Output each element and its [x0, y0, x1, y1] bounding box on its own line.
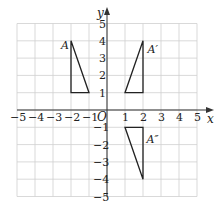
y-tick-label: 4	[99, 35, 106, 48]
x-tick-label: −4	[28, 111, 44, 124]
y-tick-label: −3	[93, 156, 109, 169]
y-tick-label: 1	[99, 87, 106, 100]
y-tick-label: 3	[99, 52, 106, 65]
triangle-label: A	[60, 39, 69, 52]
coordinate-grid-svg: x y O −5−4−3−2−11234554321−1−2−3−4−5 AA′…	[0, 0, 221, 209]
x-tick-label: −3	[46, 111, 62, 124]
triangle-a-prime	[125, 41, 143, 93]
triangle-label: A′	[147, 43, 159, 56]
y-tick-label: −1	[93, 121, 109, 134]
x-axis-label: x	[207, 112, 214, 126]
x-tick-label: 3	[158, 111, 165, 124]
y-tick-label: −5	[93, 191, 109, 204]
triangles: AA′A″	[60, 39, 159, 179]
y-tick-label: −2	[93, 139, 109, 152]
x-tick-label: 1	[122, 111, 129, 124]
triangle-a	[71, 41, 89, 93]
y-tick-label: 5	[99, 18, 106, 31]
x-tick-label: 5	[194, 111, 201, 124]
y-tick-label: 2	[99, 69, 106, 82]
x-tick-label: 2	[140, 111, 147, 124]
y-tick-label: −4	[93, 173, 109, 186]
x-tick-label: 4	[176, 111, 183, 124]
x-tick-label: −5	[10, 111, 26, 124]
x-tick-label: −2	[64, 111, 80, 124]
coordinate-diagram: x y O −5−4−3−2−11234554321−1−2−3−4−5 AA′…	[0, 0, 221, 209]
axes: x y O	[17, 6, 214, 197]
triangle-label: A″	[146, 133, 160, 146]
y-axis-arrow-icon	[104, 7, 110, 15]
triangle-a-double-prime	[125, 127, 143, 179]
